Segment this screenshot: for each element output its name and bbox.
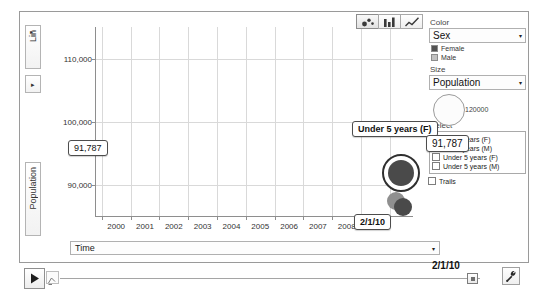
- color-select-value: Sex: [433, 30, 450, 41]
- size-legend: 120000: [429, 92, 526, 116]
- y-scale-caret-icon: ▸: [30, 28, 33, 37]
- color-select-caret-icon: ▾: [519, 32, 522, 39]
- checkbox-under-5-m[interactable]: [432, 162, 440, 170]
- y-axis-expand-caret-icon: ▸: [31, 81, 35, 88]
- time-axis-select-value: Time: [75, 243, 95, 253]
- x-tick-label: 2006: [280, 222, 298, 231]
- play-icon: [30, 273, 40, 284]
- size-legend-circle: [433, 94, 465, 126]
- legend-item-female: Female: [431, 45, 526, 52]
- x-gridline: [217, 27, 218, 216]
- size-section-label: Size: [430, 65, 526, 74]
- y-tick-label: 90,000: [68, 180, 92, 189]
- y-gridline: [96, 185, 413, 186]
- bubble-value-tooltip: 91,787: [426, 135, 469, 152]
- x-tick-mark: [159, 216, 160, 220]
- settings-panel: Color Sex ▾ Female Male Size Population …: [429, 16, 526, 232]
- x-tick-mark: [217, 216, 218, 220]
- bubble-under-5-years-f[interactable]: [388, 160, 414, 186]
- x-axis-value-tooltip: 2/1/10: [354, 214, 391, 230]
- bar-chart-button[interactable]: [378, 14, 401, 29]
- size-select-value: Population: [433, 77, 480, 88]
- chart-type-toolbar: [357, 14, 423, 29]
- x-tick-mark: [131, 216, 132, 220]
- time-axis-select-caret-icon: ▾: [432, 245, 435, 252]
- y-tick-label: 100,000: [63, 117, 92, 126]
- color-select[interactable]: Sex ▾: [429, 28, 526, 43]
- select-option-under-5-f[interactable]: Under 5 years (F): [432, 153, 523, 161]
- checkbox-under-5-f[interactable]: [432, 153, 440, 161]
- x-tick-mark: [188, 216, 189, 220]
- x-tick-label: 2005: [251, 222, 269, 231]
- x-gridline: [332, 27, 333, 216]
- motion-chart-app: Lin ▸ ▸ Population: [0, 0, 550, 294]
- bubble-series-tooltip: Under 5 years (F): [352, 121, 438, 137]
- x-tick-mark: [246, 216, 247, 220]
- x-gridline: [131, 27, 132, 216]
- x-gridline: [275, 27, 276, 216]
- y-scale-button[interactable]: Lin ▸: [25, 25, 41, 69]
- label-under-5-f: Under 5 years (F): [443, 154, 498, 161]
- color-section-label: Color: [430, 18, 526, 27]
- y-gridline: [96, 59, 413, 60]
- timeline-track[interactable]: [60, 278, 480, 279]
- y-tick-label: 110,000: [64, 54, 92, 63]
- app-frame: Lin ▸ ▸ Population: [19, 11, 529, 263]
- x-gridline: [188, 27, 189, 216]
- size-select-caret-icon: ▾: [519, 79, 522, 86]
- x-tick-label: 2002: [165, 222, 183, 231]
- legend-label-female: Female: [441, 45, 464, 52]
- legend-swatch-male: [431, 54, 438, 61]
- size-legend-max-value: 120000: [465, 106, 488, 113]
- y-tick-mark: [92, 122, 96, 123]
- x-gridline: [102, 27, 103, 216]
- speed-icon: [47, 275, 58, 286]
- legend-label-male: Male: [441, 54, 456, 61]
- y-axis-label: Population: [28, 167, 38, 210]
- y-axis-controls: Lin ▸ ▸ Population: [22, 14, 44, 260]
- bubble-chart-button[interactable]: [356, 14, 379, 29]
- y-axis-value-tooltip: 91,787: [68, 140, 108, 156]
- bar-chart-icon: [383, 17, 396, 27]
- settings-button[interactable]: [502, 267, 520, 285]
- wrench-icon: [505, 270, 517, 282]
- timeline-current-value: 2/1/10: [432, 260, 460, 271]
- x-gridline: [246, 27, 247, 216]
- line-chart-icon: [405, 17, 419, 27]
- y-tick-mark: [92, 59, 96, 60]
- y-axis-expand-button[interactable]: ▸: [25, 75, 41, 93]
- y-tick-mark: [92, 185, 96, 186]
- x-tick-mark: [275, 216, 276, 220]
- x-gridline: [159, 27, 160, 216]
- select-option-under-5-m[interactable]: Under 5 years (M): [432, 162, 523, 170]
- play-button[interactable]: [24, 268, 45, 289]
- x-tick-label: 2001: [136, 222, 154, 231]
- time-axis-select[interactable]: Time ▾: [70, 241, 440, 255]
- label-under-5-m: Under 5 years (M): [443, 163, 499, 170]
- x-tick-mark: [102, 216, 103, 220]
- legend-item-male: Male: [431, 54, 526, 61]
- x-tick-mark: [303, 216, 304, 220]
- trails-option[interactable]: Trails: [428, 177, 526, 185]
- line-chart-button[interactable]: [400, 14, 423, 29]
- y-axis-label-button[interactable]: Population: [25, 162, 41, 236]
- x-tick-mark: [332, 216, 333, 220]
- x-tick-label: 2000: [107, 222, 125, 231]
- legend-swatch-female: [431, 45, 438, 52]
- bubble-chart-icon: [361, 17, 375, 27]
- x-tick-label: 2004: [223, 222, 241, 231]
- playback-speed-button[interactable]: [46, 271, 59, 284]
- plot-wrapper: 110,000100,00090,00020002001200220032004…: [46, 16, 426, 238]
- timeline-thumb[interactable]: [467, 273, 478, 284]
- x-gridline: [303, 27, 304, 216]
- x-tick-label: 2008: [338, 222, 356, 231]
- checkbox-trails[interactable]: [428, 177, 436, 185]
- label-trails: Trails: [439, 178, 456, 185]
- bubble-5-to-9-years-f[interactable]: [394, 198, 412, 216]
- x-tick-label: 2007: [309, 222, 327, 231]
- x-tick-label: 2003: [194, 222, 212, 231]
- size-select[interactable]: Population ▾: [429, 75, 526, 90]
- timeline-thumb-dot: [471, 277, 475, 281]
